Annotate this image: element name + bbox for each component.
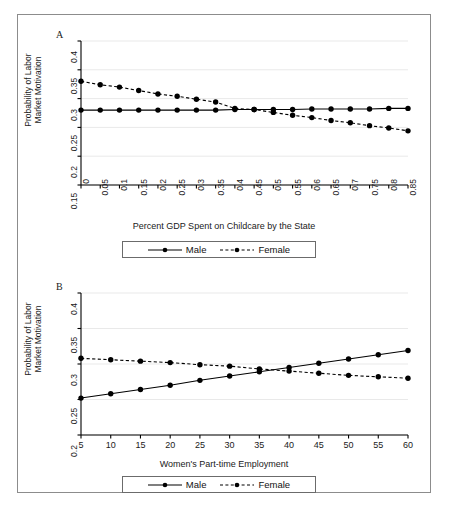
panel-b-plot-area [81, 293, 408, 435]
data-point-female [174, 94, 179, 99]
data-point-female [405, 376, 410, 381]
data-point-female [367, 123, 372, 128]
data-point-male [290, 107, 295, 112]
panel-b-plot-svg [81, 293, 408, 435]
x-tick-label: 15 [128, 440, 152, 450]
panel-a-legend-female: Female [220, 245, 290, 255]
panel-a-y-axis-title-line1: Probability of Labor [23, 25, 33, 155]
x-tick-label: 60 [396, 440, 420, 450]
series-line-male [81, 108, 408, 110]
x-tick-label: 0.2 [158, 179, 168, 203]
x-tick-label: 10 [99, 440, 123, 450]
data-point-female [328, 118, 333, 123]
data-point-female [348, 120, 353, 125]
x-tick-label: 0.55 [293, 179, 303, 203]
data-point-male [78, 395, 83, 400]
data-point-male [108, 391, 113, 396]
panel-b-legend-female: Female [220, 480, 290, 490]
x-tick-label: 0.85 [408, 179, 418, 203]
x-tick-label: 0.65 [331, 179, 341, 203]
data-point-female [405, 128, 410, 133]
data-point-female [138, 358, 143, 363]
data-point-male [194, 107, 199, 112]
data-point-male [386, 106, 391, 111]
panel-a-plot-area [81, 41, 408, 185]
data-point-male [367, 106, 372, 111]
data-point-male [405, 106, 410, 111]
panel-a-y-axis-title: Probability of Labor Market Motivation [23, 25, 43, 155]
data-point-female [251, 107, 256, 112]
panel-a-legend-male-label: Male [186, 245, 207, 255]
data-point-female [213, 99, 218, 104]
y-tick-label: 0.15 [69, 184, 79, 218]
x-tick-label: 0.35 [216, 179, 226, 203]
series-line-male [81, 351, 408, 399]
x-tick-label: 0.25 [177, 179, 187, 203]
data-point-female [136, 88, 141, 93]
data-point-female [108, 357, 113, 362]
y-tick-label: 0.4 [69, 40, 79, 74]
data-point-female [167, 360, 172, 365]
x-tick-label: 0 [81, 179, 91, 203]
data-point-female [197, 362, 202, 367]
x-tick-label: 0.15 [139, 179, 149, 203]
data-point-male [174, 107, 179, 112]
panel-b-y-axis-title-line1: Probability of Labor [23, 274, 33, 404]
data-point-male [316, 361, 321, 366]
panel-b-letter: B [56, 281, 63, 292]
x-tick-label: 0.7 [350, 179, 360, 203]
data-point-female [98, 82, 103, 87]
data-point-male [309, 106, 314, 111]
data-point-female [309, 115, 314, 120]
data-point-male [328, 106, 333, 111]
panel-b-y-axis-title-line2: Market Motivation [33, 274, 43, 404]
data-point-male [167, 383, 172, 388]
x-tick-label: 0.6 [312, 179, 322, 203]
x-tick-label: 0.45 [254, 179, 264, 203]
data-point-female [386, 125, 391, 130]
x-tick-label: 50 [337, 440, 361, 450]
data-point-male [213, 107, 218, 112]
x-tick-label: 0.4 [235, 179, 245, 203]
data-point-female [78, 356, 83, 361]
data-point-male [155, 107, 160, 112]
x-tick-label: 0.5 [273, 179, 283, 203]
data-point-male [138, 387, 143, 392]
panel-b-legend-female-label: Female [258, 480, 290, 490]
data-point-male [227, 373, 232, 378]
x-tick-label: 0.75 [370, 179, 380, 203]
data-point-female [271, 110, 276, 115]
series-line-female [81, 81, 408, 131]
figure-frame: A Probability of Labor Market Motivation… [17, 14, 431, 493]
x-tick-label: 0.3 [196, 179, 206, 203]
y-tick-label: 0.35 [69, 328, 79, 362]
y-tick-label: 0.25 [69, 399, 79, 433]
panel-a-legend: Male Female [122, 241, 316, 258]
y-tick-label: 0.4 [69, 292, 79, 326]
x-tick-label: 0.8 [389, 179, 399, 203]
panel-b: B Probability of Labor Market Motivation… [18, 271, 430, 494]
panel-a-y-axis-title-line2: Market Motivation [33, 25, 43, 155]
data-point-female [117, 84, 122, 89]
panel-a-plot-svg [81, 41, 408, 185]
data-point-female [78, 79, 83, 84]
data-point-female [257, 366, 262, 371]
panel-b-legend-male: Male [148, 480, 207, 490]
data-point-male [346, 356, 351, 361]
data-point-male [78, 107, 83, 112]
x-tick-label: 0.05 [100, 179, 110, 203]
panel-a: A Probability of Labor Market Motivation… [18, 15, 430, 260]
data-point-male [348, 106, 353, 111]
data-point-male [376, 352, 381, 357]
panel-a-letter: A [56, 29, 64, 40]
data-point-female [286, 368, 291, 373]
data-point-female [194, 96, 199, 101]
x-tick-label: 55 [366, 440, 390, 450]
data-point-female [316, 371, 321, 376]
series-line-female [81, 358, 408, 378]
y-tick-label: 0.2 [69, 155, 79, 189]
legend-male-line-icon [148, 245, 182, 255]
panel-a-x-axis-title: Percent GDP Spent on Childcare by the St… [18, 221, 430, 231]
data-point-female [346, 373, 351, 378]
x-tick-label: 5 [69, 440, 93, 450]
